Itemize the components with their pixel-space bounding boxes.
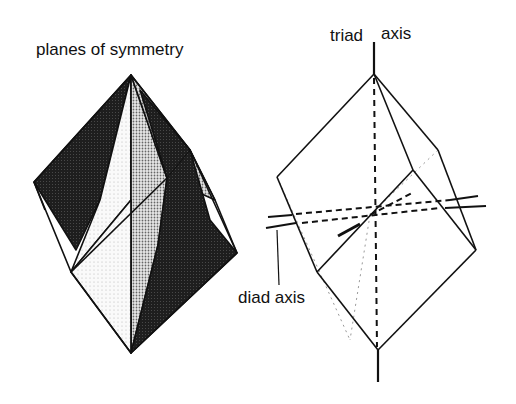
diad-axis-label: diad axis [238, 288, 305, 308]
diad-axis-end-right-2 [445, 206, 486, 208]
planes-of-symmetry-label: planes of symmetry [36, 40, 183, 60]
diad-axis-end-left-1 [268, 215, 292, 217]
triad-label-left: triad [330, 26, 363, 46]
planes-of-symmetry-figure [34, 75, 237, 353]
symmetry-axes-figure [266, 42, 486, 382]
diad-axis-end-right-1 [450, 196, 478, 200]
crystal-diagrams [0, 0, 516, 404]
diad-leader-line [277, 230, 279, 285]
diad-axis-end-left-2 [266, 223, 296, 228]
triad-label-right: axis [381, 24, 411, 44]
